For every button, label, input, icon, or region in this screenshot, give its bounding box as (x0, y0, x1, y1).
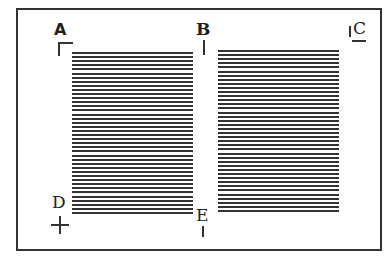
text-line (218, 189, 339, 191)
vertical-tick-icon (202, 226, 204, 237)
left-text-column (72, 52, 193, 214)
text-line (72, 146, 193, 148)
text-line (72, 134, 193, 136)
label-a: A (54, 22, 66, 38)
text-line (218, 116, 339, 118)
text-line (218, 58, 339, 60)
label-c: C (353, 20, 366, 37)
text-line (72, 212, 193, 214)
text-line (72, 163, 193, 165)
text-line (72, 130, 193, 132)
text-line (72, 93, 193, 95)
text-line (72, 191, 193, 193)
text-line (72, 204, 193, 206)
text-line (72, 179, 193, 181)
label-b: B (196, 21, 210, 38)
text-line (218, 120, 339, 122)
text-line (72, 200, 193, 202)
text-line (218, 206, 339, 208)
text-line (218, 185, 339, 187)
underline-mark (352, 40, 366, 42)
text-line (218, 99, 339, 101)
text-line (218, 194, 339, 196)
right-text-column (218, 50, 339, 212)
text-line (218, 181, 339, 183)
text-line (218, 140, 339, 142)
text-line (72, 105, 193, 107)
text-line (218, 95, 339, 97)
text-line (218, 128, 339, 130)
text-line (218, 136, 339, 138)
text-line (218, 173, 339, 175)
text-line (218, 153, 339, 155)
text-line (72, 126, 193, 128)
text-line (218, 144, 339, 146)
text-line (218, 177, 339, 179)
text-line (72, 208, 193, 210)
text-line (72, 142, 193, 144)
text-line (72, 138, 193, 140)
label-d: D (52, 194, 66, 211)
vertical-tick-icon (349, 26, 351, 37)
text-line (218, 66, 339, 68)
text-line (72, 52, 193, 54)
text-line (72, 183, 193, 185)
label-e: E (196, 207, 208, 224)
text-line (218, 103, 339, 105)
text-line (72, 175, 193, 177)
text-line (72, 122, 193, 124)
text-line (218, 124, 339, 126)
text-line (218, 107, 339, 109)
text-line (218, 83, 339, 85)
text-line (218, 169, 339, 171)
text-line (72, 114, 193, 116)
text-line (72, 118, 193, 120)
text-line (72, 167, 193, 169)
text-line (218, 202, 339, 204)
text-line (218, 157, 339, 159)
text-line (218, 132, 339, 134)
text-line (72, 187, 193, 189)
text-line (72, 85, 193, 87)
text-line (218, 148, 339, 150)
text-line (72, 150, 193, 152)
text-line (218, 198, 339, 200)
text-line (218, 87, 339, 89)
text-line (72, 73, 193, 75)
text-line (218, 54, 339, 56)
text-line (218, 79, 339, 81)
text-line (218, 62, 339, 64)
text-line (72, 89, 193, 91)
text-line (218, 165, 339, 167)
text-line (72, 56, 193, 58)
text-line (72, 155, 193, 157)
text-line (72, 109, 193, 111)
text-line (218, 75, 339, 77)
text-line (72, 68, 193, 70)
text-line (72, 196, 193, 198)
text-line (72, 171, 193, 173)
text-line (72, 101, 193, 103)
text-line (72, 81, 193, 83)
text-line (218, 161, 339, 163)
text-line (72, 60, 193, 62)
text-line (218, 71, 339, 73)
vertical-tick-icon (203, 40, 205, 55)
text-line (218, 91, 339, 93)
text-line (72, 77, 193, 79)
text-line (72, 64, 193, 66)
text-line (72, 97, 193, 99)
text-line (218, 50, 339, 52)
text-line (218, 210, 339, 212)
text-line (218, 112, 339, 114)
text-line (72, 159, 193, 161)
